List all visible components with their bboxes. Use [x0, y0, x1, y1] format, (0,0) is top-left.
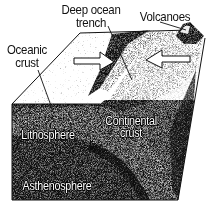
label-deep-ocean-trench-line2: trench [60, 16, 122, 29]
label-volcanoes: Volcanoes [134, 10, 196, 23]
label-oceanic-crust-line2: crust [7, 56, 47, 69]
label-asthenosphere: Asthenosphere [20, 180, 94, 192]
label-volcanoes-text: Volcanoes [134, 10, 196, 23]
diagram-artwork [0, 0, 212, 204]
label-continental-crust: Continental crust [103, 115, 160, 139]
label-lithosphere-text: Lithosphere [14, 129, 83, 141]
label-deep-ocean-trench: Deep ocean trench [60, 3, 122, 29]
label-lithosphere: Lithosphere [14, 129, 83, 141]
label-continental-crust-line2: crust [103, 127, 160, 139]
label-oceanic-crust: Oceanic crust [7, 43, 47, 69]
subduction-block-diagram: Deep ocean trench Volcanoes Oceanic crus… [0, 0, 212, 204]
label-asthenosphere-text: Asthenosphere [20, 180, 94, 192]
